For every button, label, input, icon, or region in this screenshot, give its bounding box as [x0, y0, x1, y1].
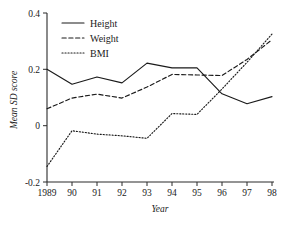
legend: Height Weight BMI [62, 18, 119, 59]
x-axis: 1989 90 91 92 93 94 95 96 97 98 Year [38, 182, 278, 214]
x-tick-label-2: 91 [92, 188, 102, 198]
x-tick-label-0: 1989 [38, 188, 57, 198]
series-group [47, 34, 272, 166]
y-tick-label-1: 0.2 [28, 65, 40, 75]
y-axis-title: Mean SD score [9, 71, 19, 130]
x-tick-label-6: 95 [192, 188, 202, 198]
line-chart: 0.4 0.2 0 -0.2 Mean SD score 1989 90 91 … [0, 0, 300, 225]
legend-label-height: Height [90, 18, 117, 29]
y-tick-label-3: -0.2 [25, 178, 40, 188]
legend-label-weight: Weight [90, 33, 119, 44]
y-tick-label-0: 0.4 [28, 9, 40, 19]
x-tick-label-8: 97 [242, 188, 252, 198]
x-tick-label-5: 94 [167, 188, 177, 198]
series-line-weight [47, 40, 272, 109]
x-tick-label-9: 98 [267, 188, 277, 198]
x-tick-label-4: 93 [142, 188, 152, 198]
series-line-height [47, 63, 272, 104]
y-axis: 0.4 0.2 0 -0.2 Mean SD score [9, 9, 47, 188]
x-axis-title: Year [151, 204, 168, 214]
x-tick-label-3: 92 [117, 188, 127, 198]
chart-container: 0.4 0.2 0 -0.2 Mean SD score 1989 90 91 … [0, 0, 300, 225]
x-tick-label-1: 90 [67, 188, 77, 198]
y-tick-label-2: 0 [35, 121, 40, 131]
x-tick-label-7: 96 [217, 188, 227, 198]
legend-label-bmi: BMI [90, 48, 109, 59]
